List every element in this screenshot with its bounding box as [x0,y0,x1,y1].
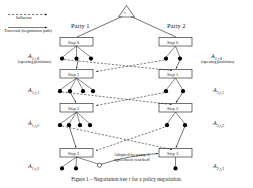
step-box-right-3[interactable]: Step 3 [167,151,178,156]
step-boxes [60,38,192,158]
action-set-right-3: A2,r,3 [213,163,224,171]
legend-traversal-label: Traversal (negotiation path) [4,29,52,33]
figure-caption: Figure 1 – Negotiation tree r for a poli… [0,177,253,182]
action-set-right-2: A2,r,2 [213,120,224,128]
step-box-right-0[interactable]: Step 0 [167,40,178,45]
action-set-left-0-note: (opening positions) [18,60,51,64]
root-to-step0-edges [77,17,176,38]
step-box-left-3[interactable]: Step 3 [68,151,79,156]
root-triangle [119,6,135,18]
action-set-right-0-note: (opening positions) [201,60,234,64]
agreement-annotation: Adopted by party 1, agreement reached! [99,152,165,163]
negotiation-tree-figure: r Influence Traversal (negotiation path)… [0,0,253,188]
step-box-right-1[interactable]: Step 1 [167,72,178,77]
action-set-right-1: A2,r,1 [213,87,224,95]
action-set-left-2: A1,r,2 [28,120,39,128]
agreement-annotation-line2: agreement reached! [99,157,165,162]
figure-caption-prefix: Figure 1 – Negotiation tree [71,176,127,182]
step-box-left-0[interactable]: Step 0 [68,40,79,45]
figure-caption-symbol: r [129,176,131,182]
root-label: r [124,10,126,15]
party-2-label: Party 2 [167,23,186,30]
action-set-left-3: A1,r,3 [28,163,39,171]
figure-caption-suffix: for a policy negotiation. [132,176,182,182]
step-box-right-2[interactable]: Step 2 [167,106,178,111]
step-box-left-1[interactable]: Step 1 [68,72,79,77]
action-set-left-1: A1,r,1 [28,87,39,95]
step-box-left-2[interactable]: Step 2 [68,106,79,111]
agreement-node [97,163,101,167]
party-1-label: Party 1 [71,23,90,30]
legend-influence-label: Influence [16,16,32,20]
